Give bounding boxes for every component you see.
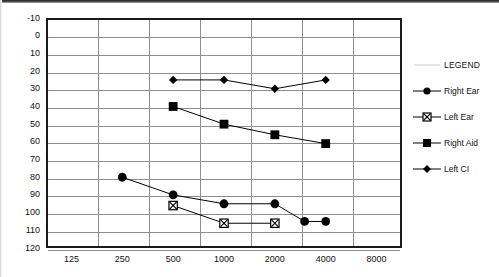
series-right-ear (118, 173, 330, 226)
y-tick-label: 10 (0, 49, 40, 58)
y-tick-label: 0 (0, 31, 40, 40)
x-tick-label: 4000 (301, 255, 351, 264)
data-point-circle (321, 217, 330, 226)
y-tick-label: 80 (0, 173, 40, 182)
data-point-square (270, 130, 279, 139)
data-point-square (321, 139, 330, 148)
series-right-aid (169, 102, 330, 148)
data-point-diamond (169, 76, 177, 84)
y-tick-label: 50 (0, 120, 40, 129)
chart-legend: LEGEND Right Ear Left Ear Right Aid Left… (412, 52, 498, 182)
series-line (173, 106, 326, 143)
y-tick-label: 110 (0, 226, 40, 235)
legend-label-left-ci: Left CI (442, 164, 469, 174)
x-tick-label: 8000 (352, 255, 402, 264)
scan-edge-artifact-top (0, 0, 499, 3)
filled-circle-icon (412, 84, 442, 98)
y-tick-label: 120 (0, 244, 40, 253)
x-tick-label: 1000 (199, 255, 249, 264)
y-tick-label: 70 (0, 155, 40, 164)
data-point-diamond (271, 85, 279, 93)
legend-label-right-ear: Right Ear (442, 86, 479, 96)
data-point-circle (270, 199, 279, 208)
data-point-circle (300, 217, 309, 226)
legend-title-rule (412, 58, 442, 72)
filled-square-icon (412, 136, 442, 150)
data-point-square-with-x (220, 219, 228, 227)
series-line (173, 80, 326, 89)
legend-title-label: LEGEND (442, 60, 480, 70)
legend-item-left-ear: Left Ear (412, 104, 498, 130)
legend-item-left-ci: Left CI (412, 156, 498, 182)
y-tick-label: -10 (0, 14, 40, 23)
data-point-diamond (220, 76, 228, 84)
data-point-circle (220, 199, 229, 208)
filled-diamond-icon (412, 162, 442, 176)
y-gridline (48, 250, 400, 251)
legend-label-right-aid: Right Aid (442, 138, 478, 148)
data-point-circle (118, 173, 127, 182)
legend-item-right-ear: Right Ear (412, 78, 498, 104)
square-with-x-icon (412, 110, 442, 124)
legend-item-right-aid: Right Aid (412, 130, 498, 156)
data-series-layer (46, 18, 402, 248)
y-tick-label: 100 (0, 208, 40, 217)
x-tick-label: 500 (148, 255, 198, 264)
data-point-square-with-x (169, 201, 177, 209)
audiogram-page: -100102030405060708090100110120 12525050… (0, 0, 499, 277)
y-tick-label: 20 (0, 67, 40, 76)
data-point-square (169, 102, 178, 111)
data-point-square-with-x (271, 219, 279, 227)
legend-title-row: LEGEND (412, 52, 498, 78)
series-left-ci (169, 76, 330, 93)
data-point-diamond (322, 76, 330, 84)
data-point-square (220, 120, 229, 129)
audiogram-chart (46, 18, 402, 248)
x-tick-label: 125 (46, 255, 96, 264)
series-line (122, 177, 325, 221)
data-point-circle (169, 191, 178, 200)
x-tick-label: 2000 (250, 255, 300, 264)
y-tick-label: 40 (0, 102, 40, 111)
x-tick-label: 250 (97, 255, 147, 264)
y-tick-label: 30 (0, 84, 40, 93)
y-tick-label: 90 (0, 190, 40, 199)
y-tick-label: 60 (0, 137, 40, 146)
legend-label-left-ear: Left Ear (442, 112, 474, 122)
